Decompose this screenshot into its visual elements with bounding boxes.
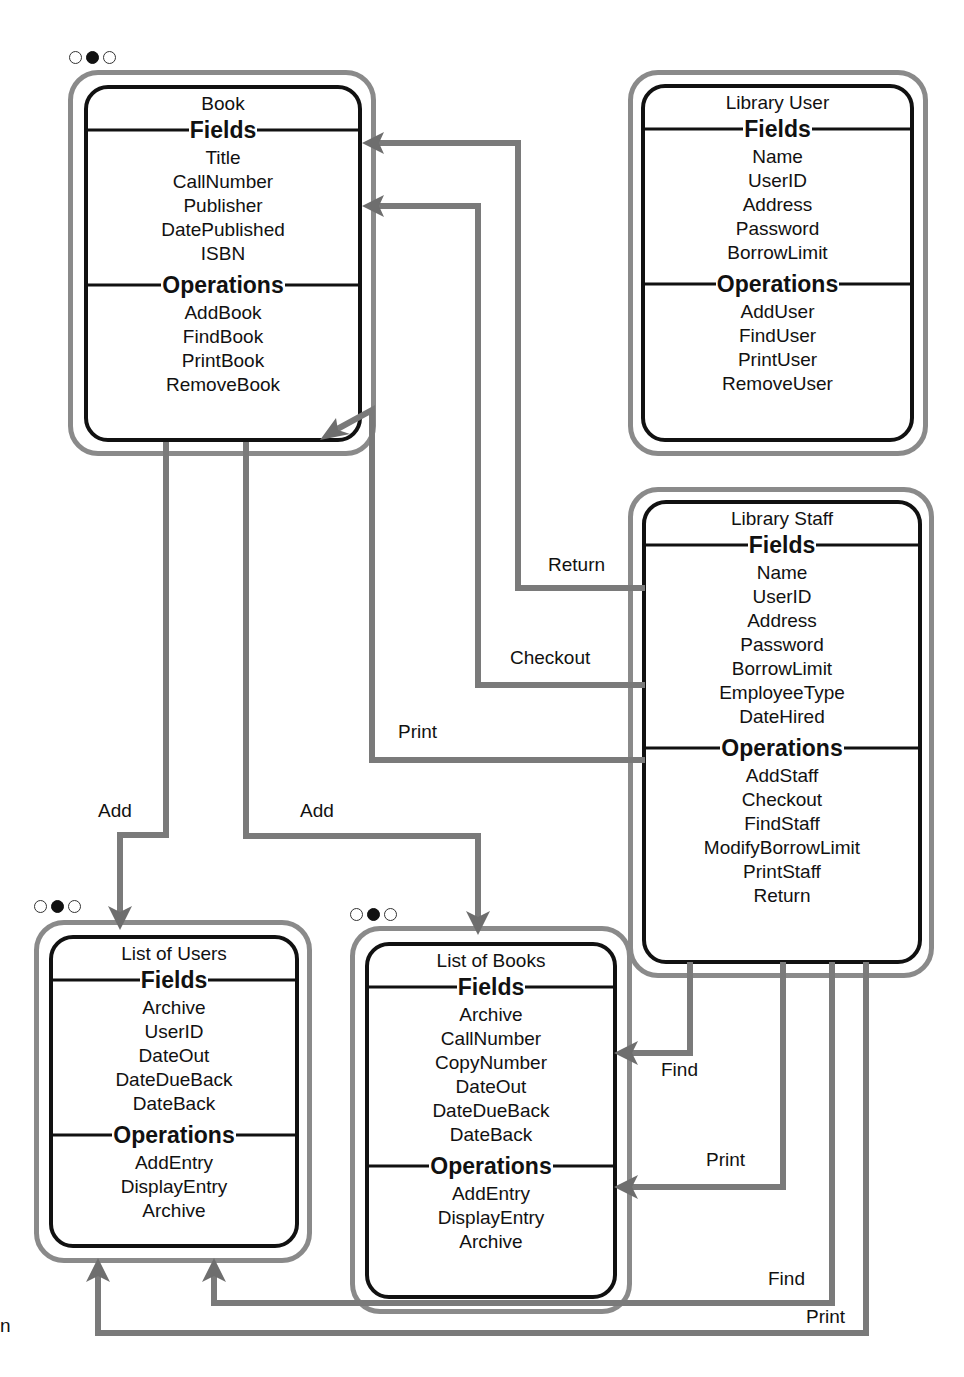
class-title: List of Books xyxy=(369,950,613,972)
label-print-book: Print xyxy=(398,721,437,743)
field-item: DateBack xyxy=(133,1092,215,1116)
fields-header: Fields xyxy=(53,966,295,994)
field-item: ISBN xyxy=(201,242,245,266)
operation-item: Archive xyxy=(459,1230,522,1254)
field-item: DatePublished xyxy=(161,218,285,242)
operations-header: Operations xyxy=(369,1152,613,1180)
field-item: CallNumber xyxy=(173,170,273,194)
fields-list: Name UserID Address Password BorrowLimit… xyxy=(646,559,918,733)
field-item: Archive xyxy=(142,996,205,1020)
operations-list: AddStaff Checkout FindStaff ModifyBorrow… xyxy=(646,762,918,912)
empty-dot-icon xyxy=(69,51,82,64)
operation-item: PrintUser xyxy=(738,348,817,372)
field-item: Archive xyxy=(459,1003,522,1027)
cropped-text-fragment: n xyxy=(0,1315,11,1337)
field-item: Name xyxy=(757,561,808,585)
field-item: Address xyxy=(747,609,817,633)
operations-header: Operations xyxy=(88,271,358,299)
operation-item: AddEntry xyxy=(452,1182,530,1206)
empty-dot-icon xyxy=(350,908,363,921)
field-item: UserID xyxy=(144,1020,203,1044)
field-item: UserID xyxy=(748,169,807,193)
class-title: Library User xyxy=(645,92,910,114)
operation-item: AddStaff xyxy=(746,764,819,788)
operation-item: Return xyxy=(753,884,810,908)
label-find-list-books: Find xyxy=(661,1059,698,1081)
book-class-box[interactable]: Book Fields Title CallNumber Publisher D… xyxy=(84,85,362,442)
library-staff-class-box[interactable]: Library Staff Fields Name UserID Address… xyxy=(642,500,922,964)
list-of-books-class-box[interactable]: List of Books Fields Archive CallNumber … xyxy=(365,942,617,1299)
filled-dot-icon xyxy=(367,908,380,921)
fields-header: Fields xyxy=(88,116,358,144)
connector-print-book xyxy=(330,410,645,760)
operation-item: Archive xyxy=(142,1199,205,1223)
field-item: DateBack xyxy=(450,1123,532,1147)
operation-item: RemoveBook xyxy=(166,373,280,397)
operation-item: DisplayEntry xyxy=(438,1206,545,1230)
operation-item: FindUser xyxy=(739,324,816,348)
field-item: Password xyxy=(740,633,823,657)
fields-list: Name UserID Address Password BorrowLimit xyxy=(645,143,910,269)
operation-item: FindBook xyxy=(183,325,263,349)
empty-dot-icon xyxy=(68,900,81,913)
operation-item: AddUser xyxy=(741,300,815,324)
field-item: EmployeeType xyxy=(719,681,845,705)
field-item: DateDueBack xyxy=(115,1068,232,1092)
field-item: BorrowLimit xyxy=(727,241,827,265)
list-of-users-class-box[interactable]: List of Users Fields Archive UserID Date… xyxy=(49,935,299,1248)
field-item: DateOut xyxy=(139,1044,210,1068)
connector-print-list-books xyxy=(626,962,783,1187)
label-add-books: Add xyxy=(300,800,334,822)
empty-dot-icon xyxy=(103,51,116,64)
fields-header: Fields xyxy=(646,531,918,559)
label-checkout: Checkout xyxy=(510,647,590,669)
field-item: Name xyxy=(752,145,803,169)
operation-item: RemoveUser xyxy=(722,372,833,396)
fields-header: Fields xyxy=(369,973,613,1001)
operation-item: PrintStaff xyxy=(743,860,821,884)
fields-list: Archive UserID DateOut DateDueBack DateB… xyxy=(53,994,295,1120)
field-item: DateOut xyxy=(456,1075,527,1099)
field-item: Password xyxy=(736,217,819,241)
label-print-list-books: Print xyxy=(706,1149,745,1171)
empty-dot-icon xyxy=(384,908,397,921)
connector-return xyxy=(372,143,645,588)
operation-item: PrintBook xyxy=(182,349,264,373)
field-item: BorrowLimit xyxy=(732,657,832,681)
class-title: List of Users xyxy=(53,943,295,965)
operations-header: Operations xyxy=(53,1121,295,1149)
multiplicity-indicator xyxy=(69,51,116,64)
operations-header: Operations xyxy=(645,270,910,298)
field-item: Address xyxy=(743,193,813,217)
operations-header: Operations xyxy=(646,734,918,762)
fields-list: Title CallNumber Publisher DatePublished… xyxy=(88,144,358,270)
library-user-class-box[interactable]: Library User Fields Name UserID Address … xyxy=(641,84,914,442)
operation-item: AddEntry xyxy=(135,1151,213,1175)
operations-list: AddBook FindBook PrintBook RemoveBook xyxy=(88,299,358,401)
empty-dot-icon xyxy=(34,900,47,913)
class-title: Book xyxy=(88,93,358,115)
operation-item: DisplayEntry xyxy=(121,1175,228,1199)
label-print-list-users: Print xyxy=(806,1306,845,1328)
fields-header: Fields xyxy=(645,115,910,143)
operation-item: FindStaff xyxy=(744,812,820,836)
label-add-users: Add xyxy=(98,800,132,822)
field-item: CallNumber xyxy=(441,1027,541,1051)
operations-list: AddEntry DisplayEntry Archive xyxy=(369,1180,613,1258)
field-item: CopyNumber xyxy=(435,1051,547,1075)
field-item: Title xyxy=(205,146,240,170)
field-item: Publisher xyxy=(183,194,262,218)
filled-dot-icon xyxy=(86,51,99,64)
connector-checkout xyxy=(372,206,645,685)
field-item: UserID xyxy=(752,585,811,609)
field-item: DateHired xyxy=(739,705,825,729)
fields-list: Archive CallNumber CopyNumber DateOut Da… xyxy=(369,1001,613,1151)
field-item: DateDueBack xyxy=(432,1099,549,1123)
operation-item: Checkout xyxy=(742,788,822,812)
connector-add-users xyxy=(120,442,166,920)
operations-list: AddEntry DisplayEntry Archive xyxy=(53,1149,295,1227)
filled-dot-icon xyxy=(51,900,64,913)
label-return: Return xyxy=(548,554,605,576)
multiplicity-indicator xyxy=(350,908,397,921)
operations-list: AddUser FindUser PrintUser RemoveUser xyxy=(645,298,910,400)
